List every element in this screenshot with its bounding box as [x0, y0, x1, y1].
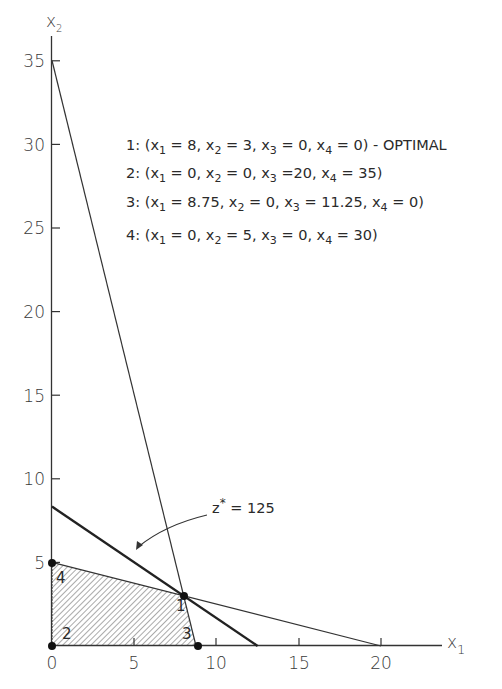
x-axis-label: x1	[447, 632, 465, 657]
corner-point-3	[194, 642, 202, 650]
corner-point-4	[48, 559, 56, 567]
svg-text:20: 20	[370, 653, 392, 673]
svg-text:10: 10	[23, 469, 45, 489]
svg-text:10: 10	[205, 653, 227, 673]
corner-point-2	[48, 642, 56, 650]
svg-text:15: 15	[288, 653, 310, 673]
svg-text:2: 2	[62, 625, 72, 643]
svg-text:15: 15	[23, 386, 45, 406]
svg-text:20: 20	[23, 302, 45, 322]
y-tick-labels: 5 10 15 20 25 30 35	[23, 51, 45, 573]
z-star-label: z* = 125	[212, 496, 275, 516]
svg-text:4: 4	[56, 569, 66, 587]
legend-item-4: 4: (x1 = 0, x2 = 5, x3 = 0, x4 = 30)	[126, 227, 378, 247]
annotation-arrow	[138, 515, 207, 547]
legend-item-1: 1: (x1 = 8, x2 = 3, x3 = 0, x4 = 0) - OP…	[126, 137, 447, 157]
y-ticks	[52, 61, 60, 563]
svg-text:35: 35	[23, 51, 45, 71]
svg-text:25: 25	[23, 218, 45, 238]
y-axis-label: x2	[46, 11, 62, 34]
x-tick-labels: 0 5 10 15 20	[47, 653, 392, 673]
svg-text:0: 0	[47, 653, 58, 673]
arrow-head-icon	[136, 541, 143, 550]
lp-graph: 5 10 15 20 25 30 35 0 5 10 15 20 x2 x1 z…	[0, 0, 502, 689]
svg-text:5: 5	[34, 553, 45, 573]
legend-item-3: 3: (x1 = 8.75, x2 = 0, x3 = 11.25, x4 = …	[126, 194, 424, 214]
svg-text:1: 1	[176, 597, 186, 615]
legend: 1: (x1 = 8, x2 = 3, x3 = 0, x4 = 0) - OP…	[126, 137, 447, 247]
svg-text:3: 3	[182, 625, 192, 643]
svg-text:5: 5	[129, 653, 140, 673]
legend-item-2: 2: (x1 = 0, x2 = 0, x3 =20, x4 = 35)	[126, 165, 382, 185]
feasible-region	[52, 562, 196, 646]
svg-text:30: 30	[23, 135, 45, 155]
